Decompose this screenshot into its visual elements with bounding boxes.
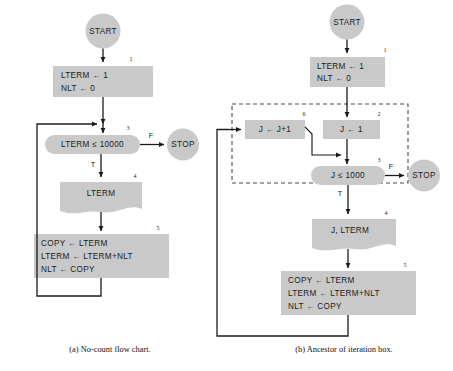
panel-a-box5: 5 COPY ← LTERM LTERM ← LTERM+NLT NLT ← C… [34, 225, 169, 279]
panel-b-box6: 6 J ← J+1 [245, 111, 306, 139]
panel-a-decision3-number: 3 [127, 125, 130, 131]
panel-b-true-label: T [338, 189, 343, 198]
panel-b-box6-number: 6 [303, 111, 306, 117]
flowchart-figure: START 1 LTERM ← 1 NLT ← 0 3 LTERM ≤ 1000… [0, 0, 453, 371]
panel-b-false-label: F [389, 162, 394, 171]
panel-b-box2: 2 J ← 1 [323, 111, 381, 139]
panel-b-box1-line2: NLT ← 0 [317, 74, 351, 83]
panel-b-stop-node: STOP [408, 160, 440, 192]
panel-b-box5: 5 COPY ← LTERM LTERM ← LTERM+NLT NLT ← C… [281, 262, 416, 316]
panel-b-box5-number: 5 [404, 262, 407, 268]
panel-a-start-label: START [89, 27, 117, 36]
panel-a-box5-line3: NLT ← COPY [41, 265, 95, 274]
panel-a-box1-line1: LTERM ← 1 [61, 71, 108, 80]
panel-b-box2-number: 2 [378, 111, 381, 117]
panel-b-decision3-number: 3 [378, 157, 381, 163]
panel-a-box5-line1: COPY ← LTERM [41, 239, 108, 248]
panel-b-decision3: 3 J ≤ 1000 [311, 157, 385, 185]
panel-a-start-node: START [86, 14, 121, 49]
panel-b-box2-text: J ← 1 [340, 125, 363, 134]
panel-a-stop-node: STOP [167, 129, 199, 161]
panel-b-box1-number: 1 [384, 47, 387, 53]
panel-b-doc4: 4 J, LTERM [312, 210, 396, 251]
panel-a-caption: (a) No-count flow chart. [69, 345, 150, 354]
panel-b-box6-text: J ← J+1 [259, 125, 292, 134]
panel-b: START 1 LTERM ← 1 NLT ← 0 2 J ← 1 6 J ← … [217, 5, 440, 355]
panel-a: START 1 LTERM ← 1 NLT ← 0 3 LTERM ≤ 1000… [34, 14, 199, 355]
panel-b-caption: (b) Ancestor of iteration box. [295, 345, 392, 354]
panel-b-box5-line2: LTERM ← LTERM+NLT [288, 289, 380, 298]
panel-a-box5-number: 5 [157, 225, 160, 231]
panel-b-doc4-number: 4 [385, 210, 388, 216]
panel-a-decision3-text: LTERM ≤ 10000 [61, 140, 124, 149]
panel-b-box5-line3: NLT ← COPY [288, 302, 342, 311]
panel-a-decision3: 3 LTERM ≤ 10000 [45, 125, 140, 155]
panel-a-doc4-number: 4 [134, 173, 137, 179]
panel-b-box1: 1 LTERM ← 1 NLT ← 0 [310, 47, 387, 88]
panel-b-decision3-text: J ≤ 1000 [331, 171, 365, 180]
panel-a-false-label: F [149, 131, 154, 140]
panel-a-true-label: T [91, 160, 96, 169]
panel-a-stop-label: STOP [171, 140, 195, 149]
panel-b-box1-line1: LTERM ← 1 [317, 62, 364, 71]
panel-a-box1-line2: NLT ← 0 [61, 84, 95, 93]
panel-a-doc4-text: LTERM [87, 189, 116, 198]
panel-b-box5-line1: COPY ← LTERM [288, 276, 355, 285]
panel-a-box1-number: 1 [130, 56, 133, 62]
panel-a-doc4: 4 LTERM [60, 173, 142, 214]
panel-b-doc4-text: J, LTERM [331, 226, 369, 235]
panel-b-stop-label: STOP [412, 171, 436, 180]
panel-b-start-label: START [333, 18, 361, 27]
panel-b-start-node: START [330, 5, 365, 40]
panel-a-box5-line2: LTERM ← LTERM+NLT [41, 252, 133, 261]
